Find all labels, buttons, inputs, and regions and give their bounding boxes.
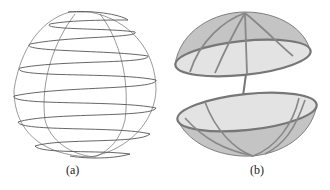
panel-a-caption: (a) [66, 163, 79, 178]
spiral-sphere-drawing [0, 0, 165, 190]
panel-b-split-sphere: (b) [165, 0, 330, 190]
panel-a-spherical-spiral: (a) [0, 0, 165, 190]
split-sphere-drawing [165, 0, 330, 190]
panel-b-caption: (b) [250, 163, 264, 178]
